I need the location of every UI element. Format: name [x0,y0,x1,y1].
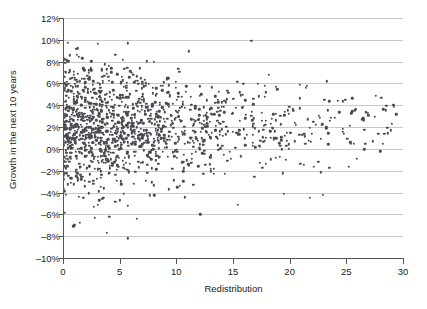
gridline [63,214,403,215]
data-point [184,143,186,145]
data-point [125,162,127,164]
data-point [82,164,84,166]
data-point [92,80,94,82]
data-point [112,89,114,91]
data-point [226,130,228,132]
data-point [276,88,278,90]
data-point [169,139,171,141]
data-point [110,158,112,160]
x-axis-tick-labels: 051015202530 [0,266,427,280]
data-point [118,157,120,159]
data-point [139,111,141,113]
data-point [72,183,74,185]
data-point [202,173,204,175]
data-point [158,110,160,112]
data-point [64,160,66,162]
data-point [126,67,128,69]
data-point [163,118,165,120]
data-point [83,77,85,79]
data-point [395,113,397,115]
data-point [246,133,248,135]
y-axis-tick-mark [58,193,63,194]
x-axis-tick-label: 20 [284,266,295,277]
data-point [391,123,393,125]
data-point [294,124,296,126]
data-point [287,109,289,111]
data-point [329,120,331,122]
data-point [126,237,128,239]
data-point [252,98,254,100]
data-point [151,122,153,124]
data-point [279,156,281,158]
data-point [160,131,162,133]
data-point [127,106,129,108]
data-point [197,139,199,141]
data-point [105,232,107,234]
data-point [203,153,205,155]
y-axis-tick-mark [58,149,63,150]
data-point [174,118,176,120]
data-point [183,106,185,108]
data-point [100,111,102,113]
data-point [154,101,156,103]
data-point [151,87,153,89]
data-point [265,163,267,165]
data-point [269,130,271,132]
data-point [327,143,329,145]
data-point [293,140,295,142]
x-axis-title: Redistribution [63,283,404,294]
data-point [110,115,112,117]
data-point [83,91,85,93]
data-point [84,107,86,109]
data-point [203,106,205,108]
data-point [251,119,253,121]
data-point [261,167,263,169]
data-point [91,96,93,98]
data-point [144,110,146,112]
data-point [77,85,79,87]
data-point [103,74,105,76]
data-point [205,99,207,101]
data-point [305,87,307,89]
data-point [204,164,206,166]
data-point [163,121,165,123]
data-point [232,97,234,99]
data-point [76,179,78,181]
data-point [264,140,266,142]
data-point [75,151,77,153]
data-point [135,218,137,220]
data-point [330,117,332,119]
data-point [285,159,287,161]
data-point [189,142,191,144]
gridline [63,236,403,237]
data-point [153,145,155,147]
data-point [224,172,226,174]
x-axis-tick-label: 15 [228,266,239,277]
data-point [150,158,152,160]
data-point [205,118,207,120]
data-point [81,57,83,59]
data-point [67,41,69,43]
data-point [223,153,225,155]
data-point [183,133,185,135]
data-point [338,111,340,113]
gridline [63,149,403,150]
data-point [389,129,391,131]
data-point [179,185,181,187]
data-point [280,136,282,138]
data-point [363,128,365,130]
data-point [73,115,75,117]
data-point [283,114,285,116]
data-point [122,58,124,60]
data-point [346,137,348,139]
data-point [212,173,214,175]
data-point [267,73,269,75]
y-axis-tick-mark [58,236,63,237]
data-point [209,163,211,165]
data-point [114,174,116,176]
data-point [88,181,90,183]
data-point [65,167,67,169]
data-point [285,145,287,147]
gridline [63,83,403,84]
data-point [170,115,172,117]
